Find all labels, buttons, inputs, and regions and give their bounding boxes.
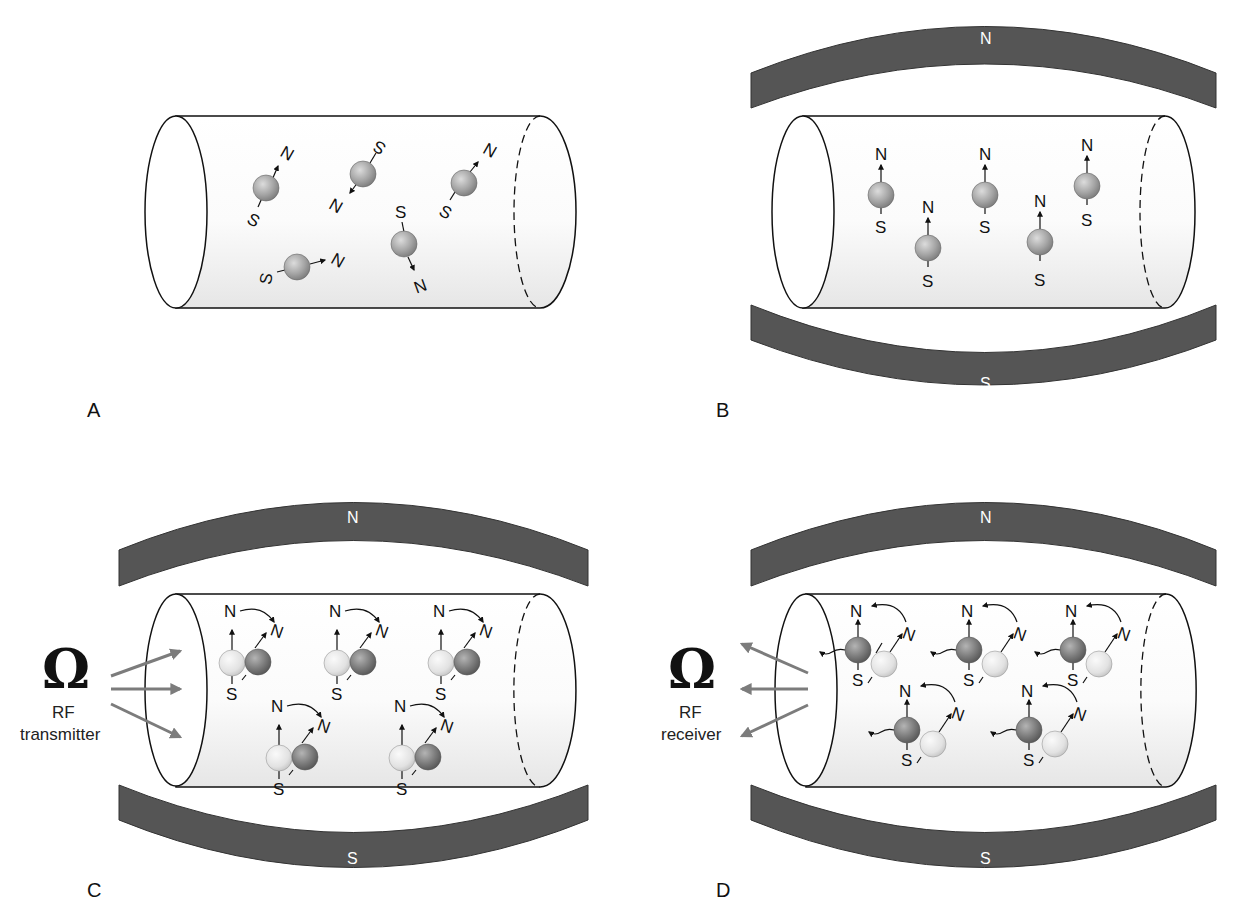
pole-n-label: N bbox=[1065, 602, 1077, 621]
bore-tube bbox=[145, 116, 576, 308]
pole-s-label: S bbox=[1081, 211, 1092, 230]
panel-label: B bbox=[716, 399, 729, 421]
pole-n-label: N bbox=[899, 682, 911, 701]
magnet-south: S bbox=[751, 305, 1216, 392]
pole-n-label: N bbox=[1034, 192, 1046, 211]
pole-s-label: S bbox=[273, 780, 284, 799]
panel-d: N S Ω RF receiver bbox=[661, 503, 1216, 902]
pole-s-label: S bbox=[396, 780, 407, 799]
panel-label: A bbox=[87, 399, 101, 421]
bore-tube bbox=[145, 594, 576, 787]
pole-s-label: S bbox=[875, 218, 886, 237]
pole-s-label: S bbox=[922, 272, 933, 291]
pole-s-label: S bbox=[901, 751, 912, 770]
pole-s-label: S bbox=[1023, 751, 1034, 770]
pole-s-label: S bbox=[435, 685, 446, 704]
magnet-pole-label: N bbox=[347, 509, 359, 526]
panel-label: D bbox=[716, 879, 730, 901]
pole-n-label: N bbox=[394, 697, 406, 716]
magnet-north: N bbox=[751, 503, 1216, 587]
pole-n-label: N bbox=[922, 198, 934, 217]
magnet-pole-label: S bbox=[347, 850, 358, 867]
pole-s-label: S bbox=[226, 685, 237, 704]
pole-n-label: N bbox=[961, 602, 973, 621]
panel-b: N S N S N S N bbox=[716, 27, 1216, 422]
pole-s-label: S bbox=[1067, 671, 1078, 690]
pole-n-label: N bbox=[224, 602, 236, 621]
pole-s-label: S bbox=[852, 671, 863, 690]
magnet-pole-label: S bbox=[980, 375, 991, 392]
pole-n-label: N bbox=[329, 602, 341, 621]
rf-label: RF bbox=[679, 703, 702, 722]
pole-n-label: N bbox=[850, 602, 862, 621]
rf-label: transmitter bbox=[20, 725, 101, 744]
rf-coil-icon: Ω bbox=[668, 637, 716, 701]
pole-n-label: N bbox=[1021, 682, 1033, 701]
magnet-north: N bbox=[119, 503, 588, 587]
bore-tube bbox=[775, 594, 1196, 787]
panel-label: C bbox=[87, 879, 101, 901]
magnet-south: S bbox=[751, 785, 1216, 868]
panel-c: N S Ω RF transmitter N bbox=[20, 503, 588, 902]
magnet-pole-label: N bbox=[980, 509, 992, 526]
pole-n-label: N bbox=[979, 145, 991, 164]
rf-coil-icon: Ω bbox=[42, 637, 90, 701]
rf-label: receiver bbox=[661, 725, 722, 744]
pole-n-label: N bbox=[433, 602, 445, 621]
pole-s-label: S bbox=[1034, 271, 1045, 290]
pole-s-label: S bbox=[979, 218, 990, 237]
magnet-pole-label: N bbox=[980, 30, 992, 47]
magnet-north: N bbox=[751, 27, 1216, 109]
magnet-south: S bbox=[119, 785, 588, 868]
pole-s-label: S bbox=[331, 685, 342, 704]
pole-n-label: N bbox=[1081, 136, 1093, 155]
pole-s-label: S bbox=[395, 203, 406, 222]
rf-label: RF bbox=[52, 703, 75, 722]
pole-n-label: N bbox=[271, 697, 283, 716]
magnet-pole-label: S bbox=[980, 850, 991, 867]
pole-n-label: N bbox=[875, 145, 887, 164]
pole-s-label: S bbox=[963, 671, 974, 690]
panel-a: N S S N N S N S S N bbox=[87, 116, 576, 421]
mri-diagram: N S S N N S N S S N bbox=[0, 0, 1237, 923]
